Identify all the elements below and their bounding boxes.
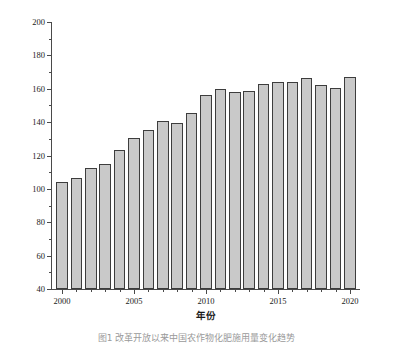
y-tick-minor	[49, 172, 52, 173]
bar-2007	[157, 121, 169, 289]
bar-2015	[272, 82, 284, 289]
x-tick-minor	[220, 289, 221, 292]
y-tick-minor	[49, 72, 52, 73]
bar-2002	[85, 168, 97, 289]
bar-2005	[128, 138, 140, 289]
x-tick-minor	[105, 289, 106, 292]
x-axis-title: 年份	[51, 308, 360, 322]
bar-2003	[99, 164, 111, 289]
bar-2013	[243, 91, 255, 289]
plot-area: 4060801001201401601802002000200520102015…	[51, 22, 360, 290]
x-tick-major	[134, 289, 135, 294]
bar-2018	[315, 85, 327, 289]
y-tick-label: 60	[37, 251, 46, 261]
y-tick-major	[47, 289, 52, 290]
x-tick-major	[62, 289, 63, 294]
x-tick-major	[350, 289, 351, 294]
x-tick-label: 2020	[341, 296, 358, 306]
bar-2019	[330, 88, 342, 289]
bar-2016	[287, 82, 299, 289]
y-tick-major	[47, 89, 52, 90]
bar-2012	[229, 92, 241, 289]
y-tick-minor	[49, 272, 52, 273]
y-tick-major	[47, 55, 52, 56]
y-tick-label: 140	[32, 117, 45, 127]
x-tick-minor	[148, 289, 149, 292]
bar-2006	[143, 130, 155, 289]
y-tick-major	[47, 156, 52, 157]
x-tick-major	[278, 289, 279, 294]
bar-2008	[171, 123, 183, 289]
x-tick-minor	[177, 289, 178, 292]
y-tick-major	[47, 222, 52, 223]
bar-2017	[301, 78, 313, 289]
x-tick-major	[206, 289, 207, 294]
y-tick-minor	[49, 39, 52, 40]
y-tick-label: 40	[37, 284, 46, 294]
bar-2020	[344, 77, 356, 289]
y-tick-label: 160	[32, 84, 45, 94]
bar-2000	[56, 182, 68, 289]
y-tick-label: 200	[32, 17, 45, 27]
y-tick-major	[47, 22, 52, 23]
y-tick-label: 180	[32, 50, 45, 60]
y-tick-minor	[49, 139, 52, 140]
x-tick-label: 2015	[269, 296, 286, 306]
x-tick-minor	[163, 289, 164, 292]
x-tick-minor	[321, 289, 322, 292]
x-tick-minor	[235, 289, 236, 292]
x-tick-minor	[120, 289, 121, 292]
x-tick-minor	[249, 289, 250, 292]
y-tick-major	[47, 122, 52, 123]
bar-2004	[114, 150, 126, 289]
y-tick-minor	[49, 206, 52, 207]
x-tick-minor	[91, 289, 92, 292]
x-tick-label: 2010	[198, 296, 215, 306]
x-tick-minor	[336, 289, 337, 292]
bar-2001	[71, 178, 83, 289]
y-tick-label: 80	[37, 217, 46, 227]
x-tick-minor	[192, 289, 193, 292]
bar-2009	[186, 113, 198, 289]
x-tick-minor	[307, 289, 308, 292]
x-tick-label: 2000	[54, 296, 71, 306]
y-tick-label: 120	[32, 151, 45, 161]
x-tick-minor	[264, 289, 265, 292]
figure-container: 单位面积化肥施用量/(kg/hm²) 406080100120140160180…	[0, 0, 393, 343]
figure-caption: 图1 改革开放以来中国农作物化肥施用量变化趋势	[0, 331, 393, 343]
bar-2014	[258, 84, 270, 289]
x-tick-minor	[76, 289, 77, 292]
y-tick-minor	[49, 105, 52, 106]
x-tick-minor	[292, 289, 293, 292]
y-tick-major	[47, 256, 52, 257]
y-tick-major	[47, 189, 52, 190]
x-tick-label: 2005	[126, 296, 143, 306]
y-tick-label: 100	[32, 184, 45, 194]
bar-2011	[215, 89, 227, 289]
y-tick-minor	[49, 239, 52, 240]
bar-2010	[200, 95, 212, 289]
